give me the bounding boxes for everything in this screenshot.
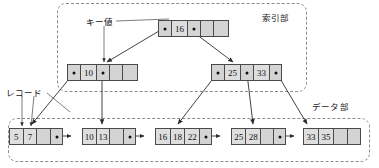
leaf4-cell-1-key[interactable]: 28 (246, 129, 260, 144)
leaf1-cell-0-key[interactable]: 5 (10, 129, 24, 144)
leaf5-cell-1-key[interactable]: 35 (319, 129, 334, 144)
leaf4-cell-3-pointer[interactable] (274, 129, 285, 144)
leaf5-cell-0-key[interactable]: 33 (304, 129, 319, 144)
leaf-node-4[interactable]: 25 28 (231, 128, 286, 145)
root-cell-3-empty[interactable] (201, 21, 215, 36)
leaf3-cell-2-key[interactable]: 22 (185, 129, 200, 144)
root-cell-4-empty[interactable] (214, 21, 228, 36)
inner-left-cell-3-empty[interactable] (110, 65, 124, 80)
record-callout-label: レコード (6, 86, 42, 98)
inner-left-cell-2-pointer[interactable] (97, 65, 110, 80)
leaf2-cell-2-empty[interactable] (110, 129, 124, 144)
leaf4-cell-0-key[interactable]: 25 (232, 129, 246, 144)
inner-right-cell-4-pointer[interactable] (270, 65, 281, 80)
data-section-label: データ部 (312, 100, 349, 112)
leaf1-cell-2-empty[interactable] (37, 129, 51, 144)
leaf1-cell-3-pointer[interactable] (51, 129, 62, 144)
leaf3-cell-3-pointer[interactable] (200, 129, 211, 144)
leaf-node-5[interactable]: 33 35 (303, 128, 361, 145)
inner-left-cell-4-empty[interactable] (123, 65, 137, 80)
key-value-callout-label: キー値 (86, 15, 113, 27)
leaf5-cell-2-empty[interactable] (334, 129, 348, 144)
leaf-node-2[interactable]: 10 13 (82, 128, 136, 145)
root-index-node[interactable]: 16 (158, 20, 229, 37)
inner-right-cell-3-key[interactable]: 33 (254, 65, 271, 80)
leaf-node-1[interactable]: 5 7 (9, 128, 63, 145)
root-cell-1-key[interactable]: 16 (172, 21, 189, 36)
btree-diagram: 索引部 データ部 (0, 0, 379, 168)
leaf3-cell-0-key[interactable]: 16 (156, 129, 171, 144)
leaf3-cell-1-key[interactable]: 18 (171, 129, 186, 144)
root-cell-2-pointer[interactable] (188, 21, 201, 36)
leaf2-cell-0-key[interactable]: 10 (83, 129, 97, 144)
leaf5-cell-3-empty[interactable] (348, 129, 360, 144)
root-cell-0-pointer[interactable] (159, 21, 172, 36)
leaf4-cell-2-empty[interactable] (261, 129, 275, 144)
inner-node-right[interactable]: 25 33 (211, 64, 282, 81)
leaf2-cell-3-pointer[interactable] (124, 129, 135, 144)
leaf2-cell-1-key[interactable]: 13 (97, 129, 111, 144)
inner-left-cell-0-pointer[interactable] (68, 65, 81, 80)
inner-right-cell-1-key[interactable]: 25 (225, 65, 242, 80)
leaf-node-3[interactable]: 16 18 22 (155, 128, 212, 145)
inner-left-cell-1-key[interactable]: 10 (81, 65, 98, 80)
index-section-label: 索引部 (262, 11, 290, 23)
inner-right-cell-0-pointer[interactable] (212, 65, 225, 80)
inner-node-left[interactable]: 10 (67, 64, 138, 81)
inner-right-cell-2-pointer[interactable] (241, 65, 254, 80)
leaf1-cell-1-key[interactable]: 7 (24, 129, 38, 144)
